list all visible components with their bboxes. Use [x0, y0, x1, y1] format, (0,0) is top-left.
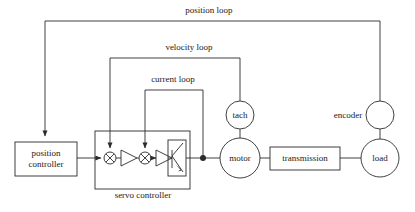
position-loop-label: position loop — [174, 5, 244, 15]
velocity-loop-label: velocity loop — [154, 42, 224, 52]
servo-controller-label: servo controller — [102, 190, 184, 200]
position-controller-label-line2: controller — [15, 159, 77, 170]
load-label: load — [360, 153, 400, 163]
motor-current-node-dot — [200, 155, 206, 161]
encoder-label: encoder — [326, 110, 370, 120]
motor-label: motor — [218, 153, 262, 163]
amplifier-1-triangle — [121, 150, 137, 166]
summing-junction-2 — [139, 152, 151, 164]
position-controller-label-line1: position — [15, 148, 77, 159]
diagram-svg — [0, 0, 415, 212]
current-loop-label: current loop — [140, 74, 206, 84]
tach-label: tach — [222, 110, 258, 120]
transmission-label: transmission — [270, 153, 340, 163]
summing-junction-1 — [104, 152, 116, 164]
current-loop-path — [145, 90, 203, 158]
encoder-circle — [366, 101, 394, 129]
velocity-loop-path — [110, 58, 240, 148]
diagram-canvas: position loop velocity loop current loop… — [0, 0, 415, 212]
